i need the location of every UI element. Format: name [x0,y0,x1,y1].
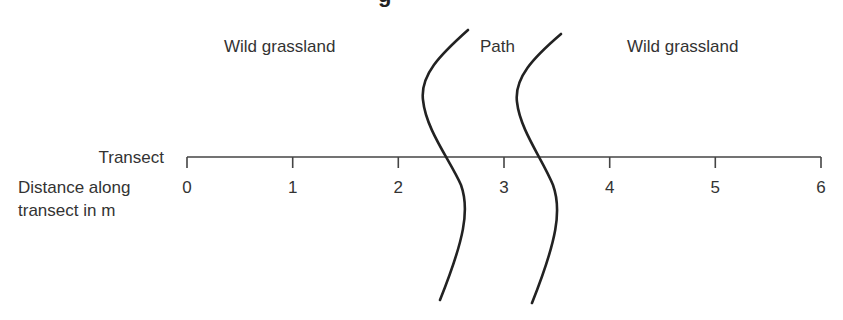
heading-fragment: g [378,0,391,7]
path-boundary-left [423,30,468,300]
region-label-left-grassland: Wild grassland [224,37,336,56]
axis-label-line2: transect in m [18,201,115,220]
tick-label-2: 2 [394,178,403,197]
axis-ticks [187,157,821,168]
tick-label-4: 4 [605,178,614,197]
axis-label-line1: Distance along [18,178,130,197]
transect-label: Transect [98,148,164,167]
region-label-right-grassland: Wild grassland [627,37,739,56]
region-label-path: Path [480,37,515,56]
tick-label-6: 6 [816,178,825,197]
tick-label-0: 0 [182,178,191,197]
transect-diagram: g Wild grassland Path Wild grassland Tra… [0,0,843,320]
axis-tick-labels: 0 1 2 3 4 5 6 [182,178,825,197]
path-boundary-right [517,34,561,303]
tick-label-5: 5 [711,178,720,197]
tick-label-1: 1 [288,178,297,197]
tick-label-3: 3 [499,178,508,197]
